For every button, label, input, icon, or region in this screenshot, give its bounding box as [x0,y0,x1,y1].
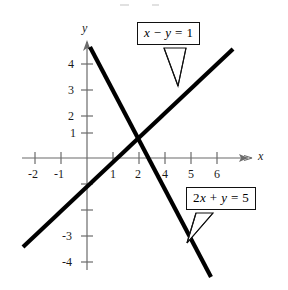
x-tick-label--1: -1 [54,168,64,180]
y-tick-label-1: 1 [70,127,76,139]
y-tick-label-4: 4 [68,58,74,70]
x-axis [22,152,252,164]
callout-pointer-xy1 [164,48,186,86]
y-tick-label-3: 3 [68,84,74,96]
y-tick-label--3: -3 [62,230,72,242]
callout-label-2x-plus-y-equals-5: 2x + y = 5 [186,187,256,210]
graph-figure: -2 -1 1 2 4 5 6 4 3 2 1 -3 -4 x y x − y … [0,0,288,290]
x-tick-label-1: 1 [110,168,116,180]
callout-label-x-minus-y-equals-1: x − y = 1 [137,22,200,45]
y-tick-label-2: 2 [68,110,74,122]
x-tick-label--2: -2 [28,168,38,180]
x-tick-label-4: 4 [162,168,168,180]
scan-artifact [152,4,159,6]
callout-pointer-2xy5 [187,213,213,243]
y-tick-label--4: -4 [62,256,72,268]
x-tick-label-5: 5 [188,168,194,180]
line-2x-plus-y-equals-5 [90,47,211,277]
scan-artifact [120,4,129,6]
x-tick-label-6: 6 [214,168,220,180]
y-axis [81,40,93,270]
x-axis-label: x [258,150,263,162]
x-tick-label-2: 2 [135,168,141,180]
y-axis-label: y [82,22,87,34]
